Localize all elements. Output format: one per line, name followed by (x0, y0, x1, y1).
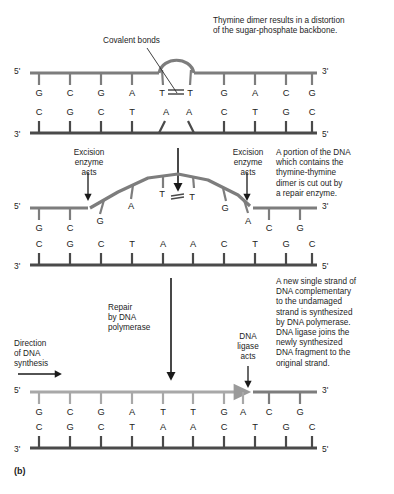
stage1-bottom-5prime: 5' (322, 129, 328, 139)
base-thymine-dimer-right: T (183, 88, 197, 98)
direction-note: Direction of DNA synthesis (14, 339, 48, 370)
stage3-bottom-backbone (30, 436, 317, 448)
excision-enzyme-left-label: Excision enzyme acts (62, 148, 116, 179)
base: T (248, 422, 262, 432)
base: C (63, 88, 77, 98)
base: G (218, 203, 232, 213)
base: C (305, 107, 319, 117)
stage3-top-3prime: 3' (322, 385, 328, 395)
base: T (125, 422, 139, 432)
covalent-bonds-label: Covalent bonds (103, 36, 160, 46)
panel-label: (b) (14, 466, 26, 476)
base: A (159, 107, 173, 117)
base: C (217, 422, 231, 432)
base: C (94, 107, 108, 117)
base: C (32, 107, 46, 117)
base: G (94, 407, 108, 417)
excision-enzyme-right-label: Excision enzyme acts (221, 148, 275, 179)
synthesis-note: A new single strand of DNA complementary… (276, 277, 356, 369)
base-thymine-dimer-left: T (155, 189, 169, 199)
stage3-top-backbone (30, 392, 317, 404)
stage1-top-3prime: 3' (322, 66, 328, 76)
base: G (279, 422, 293, 432)
stage2-top-backbone (30, 174, 317, 220)
stage2-bottom-backbone (30, 253, 317, 265)
base: G (217, 407, 231, 417)
base: T (186, 407, 200, 417)
base: A (182, 107, 196, 117)
base: T (156, 407, 170, 417)
stage2-bottom-5prime: 5' (322, 261, 328, 271)
base: G (217, 88, 231, 98)
base: G (293, 223, 307, 233)
base: A (186, 422, 200, 432)
stage3-bottom-5prime: 5' (322, 444, 328, 454)
base: G (32, 88, 46, 98)
stage1-bottom-backbone (30, 121, 317, 133)
base: A (125, 407, 139, 417)
base: C (63, 223, 77, 233)
base: A (248, 88, 262, 98)
base: C (279, 88, 293, 98)
base-thymine-dimer-left: T (155, 88, 169, 98)
base: T (125, 107, 139, 117)
base: T (248, 239, 262, 249)
base: A (186, 239, 200, 249)
base: G (293, 407, 307, 417)
base: G (93, 216, 107, 226)
base: C (305, 239, 319, 249)
base: G (63, 239, 77, 249)
base: C (32, 239, 46, 249)
base: G (32, 407, 46, 417)
base: C (262, 407, 276, 417)
thymine-dimer-note: Thymine dimer results in a distortion of… (213, 16, 345, 36)
covalent-bonds-leader-line (147, 48, 177, 93)
figure-canvas: Thymine dimer results in a distortion of… (0, 0, 394, 494)
arc-covalent-bond-icon (171, 194, 184, 199)
base: C (262, 223, 276, 233)
base: C (94, 239, 108, 249)
ligase-note: DNA ligase acts (222, 332, 274, 363)
cut-out-note: A portion of the DNA which contains the … (276, 148, 351, 199)
base: G (63, 422, 77, 432)
stage1-bottom-3prime: 3' (14, 129, 20, 139)
base: A (241, 216, 255, 226)
base: C (217, 239, 231, 249)
base: A (236, 407, 250, 417)
base: A (124, 201, 138, 211)
base: G (279, 239, 293, 249)
repair-note: Repair by DNA polymerase (108, 303, 150, 334)
stage1-top-5prime: 5' (14, 66, 20, 76)
base: G (32, 223, 46, 233)
base: C (217, 107, 231, 117)
stage2-top-3prime: 3' (322, 201, 328, 211)
base: G (279, 107, 293, 117)
stage1-top-backbone (30, 60, 317, 85)
base: C (63, 407, 77, 417)
base: T (125, 239, 139, 249)
base: A (125, 88, 139, 98)
base: T (248, 107, 262, 117)
stage2-bottom-3prime: 3' (14, 261, 20, 271)
base: A (156, 239, 170, 249)
base: C (94, 422, 108, 432)
base: C (32, 422, 46, 432)
base: A (156, 422, 170, 432)
base: G (94, 88, 108, 98)
base: C (305, 422, 319, 432)
base-thymine-dimer-right: T (185, 192, 199, 202)
base: G (63, 107, 77, 117)
stage3-top-5prime: 5' (14, 385, 20, 395)
base: G (305, 88, 319, 98)
stage2-top-5prime: 5' (14, 201, 20, 211)
stage3-bottom-3prime: 3' (14, 444, 20, 454)
